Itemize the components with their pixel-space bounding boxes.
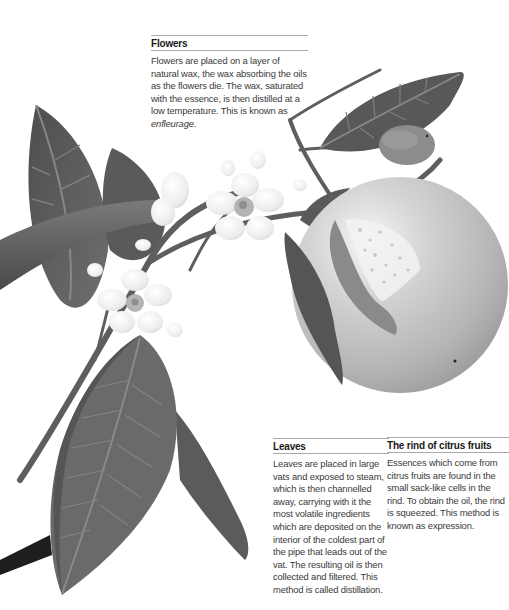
leaf-upper-left (28, 105, 108, 308)
flowers-callout: Flowers Flowers are placed on a layer of… (151, 35, 308, 131)
leaf-bottom-large (0, 335, 248, 595)
flowers-term-suffix: . (194, 118, 196, 129)
flowers-text: Flowers are placed on a layer of natural… (151, 55, 307, 116)
rind-heading: The rind of citrus fruits (387, 438, 509, 453)
flowers-heading: Flowers (151, 36, 308, 51)
blossom-right (206, 173, 284, 240)
leaves-callout: Leaves Leaves are placed in large vats a… (273, 438, 389, 597)
fruit-bud (379, 125, 435, 165)
leaves-description: Leaves are placed in large vats and expo… (273, 458, 389, 597)
leaves-heading: Leaves (273, 439, 389, 454)
flowers-description: Flowers are placed on a layer of natural… (151, 55, 308, 131)
rind-description: Essences which come from citrus fruits a… (387, 457, 509, 533)
blossom-left (97, 269, 172, 333)
citrus-fruit (292, 177, 508, 393)
rind-callout: The rind of citrus fruits Essences which… (387, 437, 509, 533)
enfleurage-term: enfleurage (151, 118, 194, 129)
